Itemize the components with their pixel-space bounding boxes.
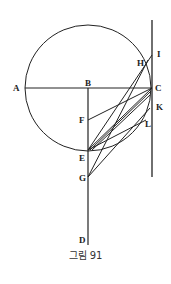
label-B: B [85, 79, 91, 88]
label-F: F [79, 116, 85, 125]
label-D: D [79, 236, 86, 245]
label-K: K [156, 103, 163, 112]
line-GI [88, 60, 148, 177]
label-L: L [145, 120, 151, 129]
label-G: G [79, 174, 86, 183]
figure-caption: 그림 91 [0, 247, 171, 262]
label-H: H [137, 59, 144, 68]
label-I: I [157, 50, 161, 59]
label-A: A [13, 84, 20, 93]
label-C: C [155, 84, 162, 93]
label-E: E [79, 154, 85, 163]
